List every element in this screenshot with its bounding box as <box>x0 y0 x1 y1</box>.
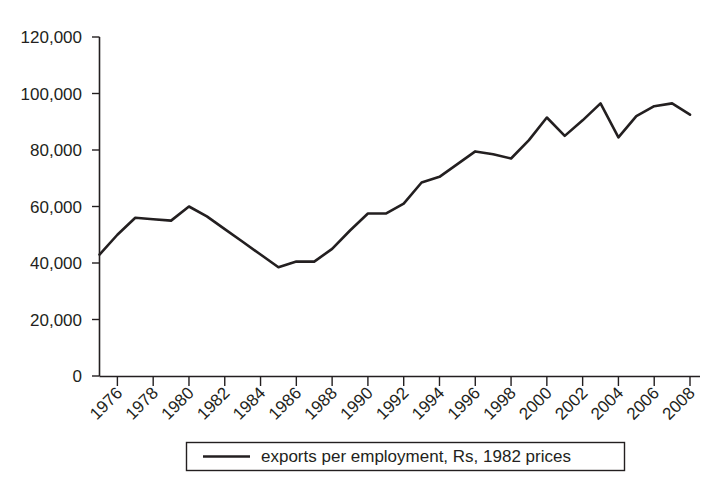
chart-legend: exports per employment, Rs, 1982 prices <box>187 443 625 471</box>
y-axis-tick-label: 0 <box>73 367 82 386</box>
x-axis-tick-label: 2008 <box>659 383 699 423</box>
x-axis-tick-label: 1996 <box>444 383 484 423</box>
y-axis-tick-label: 20,000 <box>30 311 82 330</box>
x-axis-tick-label: 1990 <box>337 383 377 423</box>
chart-canvas: 020,00040,00060,00080,000100,000120,000 … <box>0 0 710 492</box>
x-axis-tick-label: 2006 <box>623 383 663 423</box>
x-axis-tick-label: 1992 <box>372 383 412 423</box>
y-axis-tick-label: 60,000 <box>30 198 82 217</box>
x-axis-tick-label: 1994 <box>408 383 448 423</box>
x-axis-tick-label: 1980 <box>158 383 198 423</box>
x-axis-tick-label: 2000 <box>515 383 555 423</box>
x-axis-tick-label: 2004 <box>587 383 627 423</box>
x-axis-tick-label: 1984 <box>229 383 269 423</box>
y-axis-tick-label: 100,000 <box>21 85 82 104</box>
x-axis-tick-label: 1986 <box>265 383 305 423</box>
y-axis-tick-label: 120,000 <box>21 28 82 47</box>
x-axis-tick-label: 1982 <box>193 383 233 423</box>
legend-label: exports per employment, Rs, 1982 prices <box>261 447 571 466</box>
y-axis-tick-marks <box>92 37 100 376</box>
data-series-line <box>100 103 691 267</box>
y-axis-tick-labels: 020,00040,00060,00080,000100,000120,000 <box>21 28 82 386</box>
y-axis-tick-label: 40,000 <box>30 254 82 273</box>
x-axis-tick-label: 2002 <box>551 383 591 423</box>
line-chart: 020,00040,00060,00080,000100,000120,000 … <box>0 0 710 492</box>
x-axis-tick-label: 1998 <box>480 383 520 423</box>
x-axis-tick-marks <box>117 377 690 387</box>
x-axis-tick-label: 1978 <box>122 383 162 423</box>
y-axis-tick-label: 80,000 <box>30 141 82 160</box>
x-axis-tick-label: 1976 <box>86 383 126 423</box>
x-axis-tick-label: 1988 <box>301 383 341 423</box>
x-axis-tick-labels: 1976197819801982198419861988199019921994… <box>86 383 699 423</box>
